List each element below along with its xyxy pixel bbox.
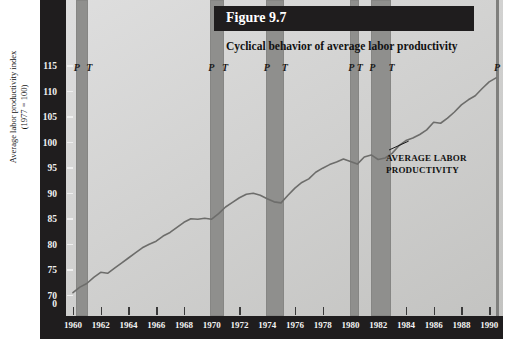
annotation-leader-line — [389, 141, 409, 150]
average-labor-productivity-line — [73, 78, 496, 293]
figure-subtitle: Cyclical behavior of average labor produ… — [226, 40, 458, 52]
figure-container: Average labor productivity index (1977 =… — [0, 0, 508, 339]
series-annotation-line2: PRODUCTIVITY — [386, 164, 467, 176]
series-annotation-line1: AVERAGE LABOR — [386, 152, 467, 164]
figure-number-label: Figure 9.7 — [226, 10, 286, 26]
figure-banner: Figure 9.7 — [214, 6, 474, 31]
series-annotation: AVERAGE LABOR PRODUCTIVITY — [386, 152, 467, 176]
